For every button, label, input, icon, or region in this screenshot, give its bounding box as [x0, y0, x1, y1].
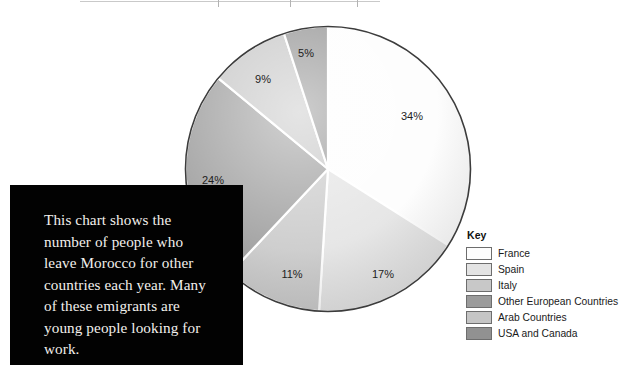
legend-item: USA and Canada	[466, 326, 624, 341]
legend: Key FranceSpainItalyOther European Count…	[466, 229, 624, 342]
legend-swatch	[466, 263, 492, 276]
legend-item-label: USA and Canada	[498, 328, 578, 339]
caption-text: This chart shows the number of people wh…	[44, 209, 219, 360]
legend-item: Italy	[466, 278, 624, 293]
legend-swatch	[466, 295, 492, 308]
chart-page: 34%17%11%24%9%5% This chart shows the nu…	[0, 0, 626, 376]
pie-slice-label: 17%	[372, 268, 394, 280]
scan-artifact-tick	[218, 0, 219, 7]
scan-artifact-tick	[290, 0, 291, 7]
legend-title: Key	[467, 229, 624, 241]
scan-artifact-line	[80, 1, 380, 2]
legend-item: Arab Countries	[466, 310, 624, 325]
legend-item: France	[466, 246, 624, 261]
legend-item-label: France	[498, 248, 530, 259]
legend-item: Spain	[466, 262, 624, 277]
legend-item-label: Italy	[498, 280, 517, 291]
legend-swatch	[466, 279, 492, 292]
pie-slice-label: 34%	[401, 110, 423, 122]
pie-slice-label: 5%	[298, 47, 314, 59]
legend-item-label: Other European Countries	[498, 296, 618, 307]
legend-rows: FranceSpainItalyOther European Countries…	[466, 246, 624, 341]
legend-swatch	[466, 311, 492, 324]
legend-item: Other European Countries	[466, 294, 624, 309]
legend-swatch	[466, 327, 492, 340]
pie-slice-label: 11%	[281, 268, 302, 280]
legend-item-label: Spain	[498, 264, 524, 275]
pie-slice-label: 9%	[255, 73, 271, 85]
scan-artifact-tick	[357, 0, 358, 7]
legend-swatch	[466, 247, 492, 260]
caption-box: This chart shows the number of people wh…	[10, 185, 243, 365]
legend-item-label: Arab Countries	[498, 312, 567, 323]
